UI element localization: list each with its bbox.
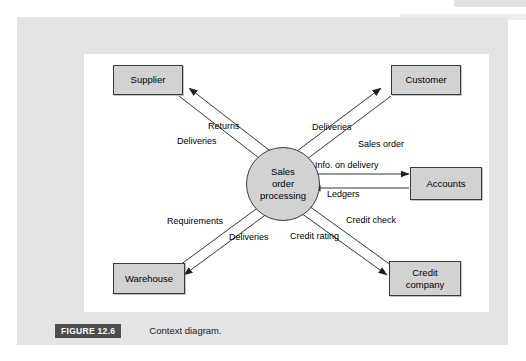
flow-label-requirements: Requirements <box>167 217 223 226</box>
entity-supplier-label: Supplier <box>131 74 166 86</box>
figure-page: Supplier Customer Accounts Warehouse Cre… <box>0 0 526 361</box>
diagram-canvas: Supplier Customer Accounts Warehouse Cre… <box>84 54 489 312</box>
flow-label-deliveries-warehouse: Deliveries <box>229 233 269 242</box>
entity-supplier[interactable]: Supplier <box>113 65 183 95</box>
entity-warehouse[interactable]: Warehouse <box>113 263 185 294</box>
flow-label-ledgers: Ledgers <box>327 190 360 199</box>
entity-accounts-label: Accounts <box>426 178 465 190</box>
flow-label-sales-order: Sales order <box>358 140 404 149</box>
flow-label-credit-check: Credit check <box>346 216 396 225</box>
figure-number-tag: FIGURE 12.6 <box>55 324 121 338</box>
flow-label-returns: Returns <box>208 122 240 131</box>
figure-caption-text: Context diagram. <box>149 326 221 336</box>
process-label-line1: Sales <box>271 166 295 178</box>
entity-warehouse-label: Warehouse <box>125 273 173 285</box>
entity-customer[interactable]: Customer <box>391 65 461 95</box>
process-label-line2: order <box>272 178 294 190</box>
entity-accounts[interactable]: Accounts <box>410 167 482 200</box>
flow-label-info-on-delivery: Info. on delivery <box>315 161 379 170</box>
process-label-line3: processing <box>260 190 306 202</box>
entity-customer-label: Customer <box>405 74 446 86</box>
figure-caption: FIGURE 12.6 Context diagram. <box>55 324 222 338</box>
flow-label-deliveries-customer: Deliveries <box>312 123 352 132</box>
process-sales-order-processing[interactable]: Sales order processing <box>246 147 320 221</box>
entity-credit-company-label-line2: company <box>406 279 445 291</box>
entity-credit-company[interactable]: Credit company <box>389 261 461 296</box>
figure-panel: Supplier Customer Accounts Warehouse Cre… <box>17 17 508 345</box>
scan-artifact-top-right <box>454 0 526 7</box>
flow-label-deliveries-supplier: Deliveries <box>177 137 217 146</box>
entity-credit-company-label-line1: Credit <box>412 267 437 279</box>
flow-label-credit-rating: Credit rating <box>290 232 339 241</box>
